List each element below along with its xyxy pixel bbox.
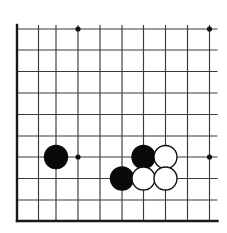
- go-board-diagram: [0, 0, 227, 233]
- star-point-top-left: [75, 26, 80, 31]
- stone-white-1[interactable]: [154, 146, 177, 169]
- star-point-bottom-right: [207, 154, 212, 159]
- stone-black-2[interactable]: [132, 146, 155, 169]
- stone-black-1[interactable]: [45, 146, 68, 169]
- stone-black-3[interactable]: [111, 167, 134, 190]
- go-board-canvas[interactable]: [0, 0, 227, 233]
- star-point-bottom-left: [75, 154, 80, 159]
- stone-white-2[interactable]: [132, 167, 155, 190]
- stone-white-3[interactable]: [154, 167, 177, 190]
- board-background: [0, 0, 227, 233]
- star-point-top-right: [207, 26, 212, 31]
